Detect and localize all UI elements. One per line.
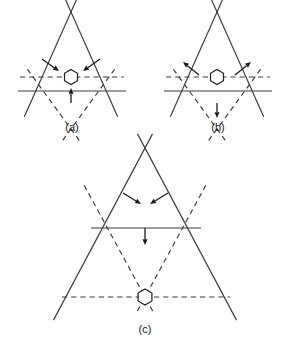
panel-label-a: (a)	[65, 121, 78, 133]
panel-a: (a)	[18, 0, 126, 140]
arrow-upper-left-inward-shaft	[42, 59, 54, 68]
panel-c: (c)	[53, 134, 236, 335]
solid-triangle-right-side	[211, 0, 263, 117]
solid-triangle-right-side	[65, 0, 117, 117]
arrow-upper-right-inward-shaft	[155, 193, 168, 201]
solid-triangle-left-side	[24, 0, 76, 117]
solid-triangle-right-side	[137, 134, 236, 320]
solid-triangle-left-side	[170, 0, 222, 117]
lattice-node	[65, 70, 78, 85]
panels-layer: (a)(b)(c)	[18, 0, 272, 335]
lattice-node	[211, 70, 224, 85]
arrow-bottom-downward-head	[215, 112, 220, 118]
arrow-upper-left-inward-shaft	[123, 193, 136, 201]
lattice-node	[138, 289, 152, 305]
panel-b: (b)	[164, 0, 272, 140]
solid-triangle-left-side	[53, 134, 152, 320]
figure-container: (a)(b)(c)	[0, 0, 292, 345]
arrow-upper-right-inward-shaft	[88, 59, 100, 68]
panel-label-c: (c)	[139, 323, 152, 335]
arrow-upper-right-inward-head	[83, 66, 89, 71]
panel-label-b: (b)	[211, 121, 224, 133]
triangular-modes-diagram: (a)(b)(c)	[0, 0, 292, 345]
arrow-middle-downward-head	[143, 239, 148, 245]
arrow-upper-left-inward-head	[53, 66, 59, 71]
